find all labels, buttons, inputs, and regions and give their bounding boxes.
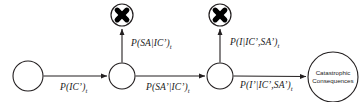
edge-sa-to-cross-label-text: P(I|IC’,SA’) — [230, 37, 278, 47]
edge-sa-to-cross-label: P(I|IC’,SA’)t — [230, 37, 280, 49]
edge-ic-to-sa-label-sub: t — [188, 87, 190, 94]
cross-node-i[interactable] — [209, 4, 231, 26]
edge-start-to-ic-label: P(IC’)t — [60, 82, 87, 94]
edge-sa-to-terminal-line — [234, 76, 307, 77]
start-node[interactable] — [13, 61, 43, 91]
edge-start-to-ic-label-text: P(IC’) — [60, 82, 85, 92]
edge-ic-to-cross-label-text: P(SA|IC’) — [131, 38, 170, 48]
diagram-canvas: Catastrophic Consequences P(IC’)t P(SA’|… — [0, 0, 364, 102]
terminal-node-label: Catastrophic Consequences — [308, 69, 358, 85]
terminal-node-label-line2: Consequences — [312, 77, 353, 84]
edge-ic-to-sa-label: P(SA’|IC’)t — [146, 82, 190, 94]
state-node-sa[interactable] — [207, 63, 233, 89]
edge-sa-to-terminal-label: P(I’|IC’,SA’)t — [240, 80, 293, 92]
edge-ic-to-sa-label-text: P(SA’|IC’) — [146, 82, 188, 92]
edge-ic-to-cross-label: P(SA|IC’)t — [131, 38, 172, 50]
edge-ic-to-cross-label-sub: t — [170, 43, 172, 50]
cross-icon — [215, 10, 225, 20]
edge-sa-to-terminal-label-sub: t — [291, 85, 293, 92]
edge-start-to-ic-label-sub: t — [85, 87, 87, 94]
edge-sa-to-cross-label-sub: t — [278, 42, 280, 49]
terminal-node-label-line1: Catastrophic — [316, 69, 351, 76]
cross-node-sa[interactable] — [111, 4, 133, 26]
cross-icon — [117, 10, 127, 20]
edge-sa-to-terminal-label-text: P(I’|IC’,SA’) — [240, 80, 291, 90]
state-node-ic[interactable] — [109, 63, 135, 89]
